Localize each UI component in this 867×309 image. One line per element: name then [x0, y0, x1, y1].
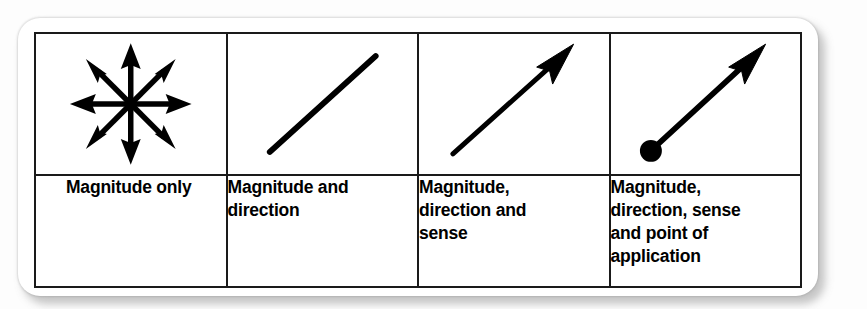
diagonal-arrow-icon: [419, 34, 609, 174]
diagonal-line-icon: [228, 34, 418, 174]
diagram-cell-bound-vector: [610, 33, 802, 175]
label-vector: Magnitude, direction and sense: [419, 176, 609, 245]
diagram-cell-line: [227, 33, 419, 175]
vector-properties-table: Magnitude only Magnitude and direction M…: [34, 32, 802, 288]
diagram-cell-scalar: [35, 33, 227, 175]
diagonal-arrow-with-origin-dot-icon: [611, 34, 801, 174]
label-line: Magnitude and direction: [228, 176, 418, 222]
label-cell-vector: Magnitude, direction and sense: [418, 175, 610, 287]
label-bound-vector: Magnitude, direction, sense and point of…: [611, 176, 801, 268]
vector-properties-figure: Magnitude only Magnitude and direction M…: [0, 0, 867, 309]
label-row: Magnitude only Magnitude and direction M…: [35, 175, 801, 287]
eight-way-arrow-star-icon: [36, 34, 226, 174]
spec-table-wrapper: Magnitude only Magnitude and direction M…: [34, 32, 802, 283]
label-cell-scalar: Magnitude only: [35, 175, 227, 287]
label-cell-line: Magnitude and direction: [227, 175, 419, 287]
diagram-row: [35, 33, 801, 175]
diagram-cell-vector: [418, 33, 610, 175]
label-cell-bound-vector: Magnitude, direction, sense and point of…: [610, 175, 802, 287]
label-scalar: Magnitude only: [36, 176, 226, 199]
